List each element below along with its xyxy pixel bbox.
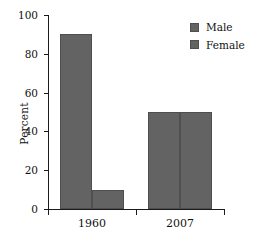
legend-label-female: Female <box>206 40 245 51</box>
x-tick-middle <box>136 210 137 215</box>
x-tick-label-1960: 1960 <box>78 218 106 229</box>
x-tick-right-edge <box>224 210 225 215</box>
legend-item-female: Female <box>190 40 245 51</box>
y-tick-label-80: 80 <box>25 49 38 60</box>
x-tick-left-edge <box>48 210 49 215</box>
y-tick-label-100: 100 <box>18 10 38 21</box>
bar-2007-male <box>148 112 180 209</box>
legend-label-male: Male <box>206 22 233 33</box>
y-tick-40: 40 <box>44 131 48 132</box>
y-tick-20: 20 <box>44 170 48 171</box>
y-axis-line <box>48 15 49 210</box>
legend-swatch-male-icon <box>190 23 199 32</box>
legend-swatch-female-icon <box>190 40 199 49</box>
y-tick-label-0: 0 <box>31 204 38 215</box>
y-tick-100: 100 <box>44 15 48 16</box>
bar-1960-male <box>60 34 92 209</box>
y-tick-60: 60 <box>44 93 48 94</box>
legend: Male Female <box>190 22 245 50</box>
y-tick-80: 80 <box>44 54 48 55</box>
y-tick-label-60: 60 <box>25 87 38 98</box>
bar-chart: Percent 0 20 40 60 80 100 1960 2007 <box>0 0 255 247</box>
bar-2007-female <box>180 112 212 209</box>
bar-1960-female <box>92 190 124 209</box>
y-tick-label-20: 20 <box>25 165 38 176</box>
y-tick-label-40: 40 <box>25 126 38 137</box>
legend-item-male: Male <box>190 22 245 33</box>
y-axis-title: Percent <box>16 0 32 247</box>
x-tick-label-2007: 2007 <box>166 218 194 229</box>
